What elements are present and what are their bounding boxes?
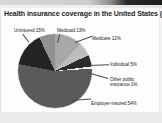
- slice-label-other-public: Other public insurance 1%: [110, 77, 144, 88]
- bottom-margin-strip: [0, 112, 162, 123]
- screenshot-root: Health insurance coverage in the United …: [0, 0, 162, 123]
- chart-title: Health insurance coverage in the United …: [4, 10, 158, 19]
- slice-label-employer: Employer-insured 54%: [91, 101, 136, 106]
- leader-line-individual: [89, 64, 109, 65]
- pie-chart: [18, 34, 92, 108]
- slice-label-uninsured: Uninsured 15%: [14, 28, 45, 33]
- slice-label-medicaid: Medicaid 13%: [57, 28, 85, 33]
- pie-graphic: [18, 34, 92, 108]
- chart-card: Health insurance coverage in the United …: [1, 8, 160, 112]
- slice-label-medicare: Medicare 12%: [92, 36, 121, 41]
- slice-label-individual: Individual 5%: [110, 62, 137, 67]
